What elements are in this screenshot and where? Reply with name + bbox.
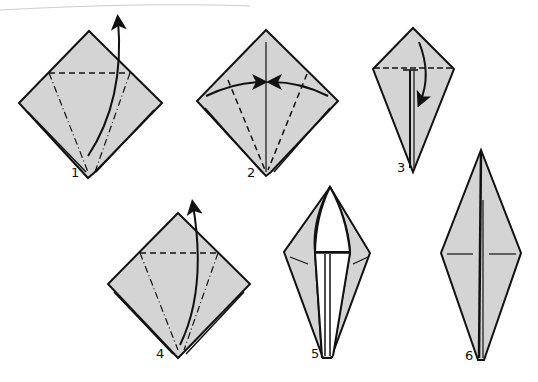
step-3-figure <box>373 28 454 172</box>
origami-diagram <box>0 0 538 382</box>
step-2-figure <box>197 30 338 176</box>
step-4-figure <box>108 205 250 358</box>
step-2-number: 2 <box>247 165 255 180</box>
step-1-number: 1 <box>71 165 79 180</box>
step-1-figure <box>19 20 162 178</box>
step-4-number: 4 <box>156 346 164 361</box>
step-6-figure <box>441 150 521 360</box>
step-5-figure <box>284 187 370 358</box>
step-3-number: 3 <box>397 160 405 175</box>
step-5-number: 5 <box>311 346 319 361</box>
step-6-number: 6 <box>465 348 473 363</box>
